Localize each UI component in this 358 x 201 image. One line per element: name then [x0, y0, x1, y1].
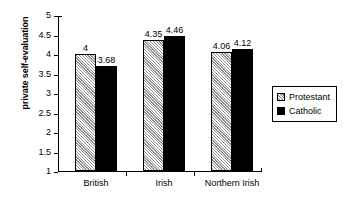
- y-axis-tick-label: 5: [46, 10, 51, 20]
- y-axis-tick-label: 4: [46, 49, 51, 59]
- x-axis-category-label: British: [83, 178, 108, 188]
- legend-swatch-catholic-icon: [277, 107, 285, 115]
- y-axis-tick-label: 2: [46, 127, 51, 137]
- bar-chart: private self-evaluation 54.543.532.521.5…: [0, 0, 358, 201]
- y-axis-tick: 4.5: [54, 36, 58, 37]
- y-axis-title: private self-evaluation: [20, 0, 30, 133]
- y-axis-tick: 5: [54, 16, 58, 17]
- y-axis-tick: 1: [54, 172, 58, 173]
- bar-protestant-british: 4: [75, 54, 96, 171]
- bar-catholic-british: 3.68: [96, 66, 117, 171]
- bar-value-label: 4.46: [166, 25, 184, 35]
- bar-value-label: 4.12: [234, 38, 252, 48]
- y-axis-tick-label: 1: [46, 166, 51, 176]
- bar-group: 4.064.12: [211, 16, 253, 171]
- legend-item-protestant: Protestant: [277, 91, 330, 103]
- y-axis-tick: 4: [54, 55, 58, 56]
- bar-value-label: 4: [83, 43, 88, 53]
- y-axis-tick: 3.5: [54, 75, 58, 76]
- x-axis-group-tick: [194, 172, 195, 176]
- y-axis-tick: 3: [54, 94, 58, 95]
- plot-area: 54.543.532.521.51 43.684.354.464.064.12 …: [58, 16, 262, 172]
- y-axis-tick-label: 4.5: [38, 30, 51, 40]
- bar-value-label: 4.35: [145, 29, 163, 39]
- bars-layer: 43.684.354.464.064.12: [59, 16, 262, 171]
- x-axis-line: [58, 171, 262, 172]
- bar-protestant-irish: 4.35: [143, 40, 164, 171]
- x-axis-category-label: Northern Irish: [205, 178, 260, 188]
- chart-legend: Protestant Catholic: [272, 86, 337, 122]
- legend-label-protestant: Protestant: [289, 92, 330, 102]
- bar-protestant-northern-irish: 4.06: [211, 52, 232, 171]
- bar-catholic-northern-irish: 4.12: [232, 49, 253, 171]
- y-axis-tick-label: 2.5: [38, 108, 51, 118]
- y-axis-tick: 1.5: [54, 153, 58, 154]
- x-axis-group-tick: [126, 172, 127, 176]
- y-axis-tick-label: 3.5: [38, 69, 51, 79]
- y-axis-tick-label: 3: [46, 88, 51, 98]
- bar-catholic-irish: 4.46: [164, 36, 185, 171]
- bar-group: 4.354.46: [143, 16, 185, 171]
- y-axis-tick: 2: [54, 133, 58, 134]
- x-axis-category-label: Irish: [155, 178, 172, 188]
- legend-label-catholic: Catholic: [289, 106, 322, 116]
- bar-value-label: 3.68: [98, 55, 116, 65]
- bar-group: 43.68: [75, 16, 117, 171]
- bar-value-label: 4.06: [213, 41, 231, 51]
- legend-swatch-protestant-icon: [277, 93, 285, 101]
- y-axis-tick: 2.5: [54, 114, 58, 115]
- legend-item-catholic: Catholic: [277, 105, 330, 117]
- y-axis-tick-label: 1.5: [38, 147, 51, 157]
